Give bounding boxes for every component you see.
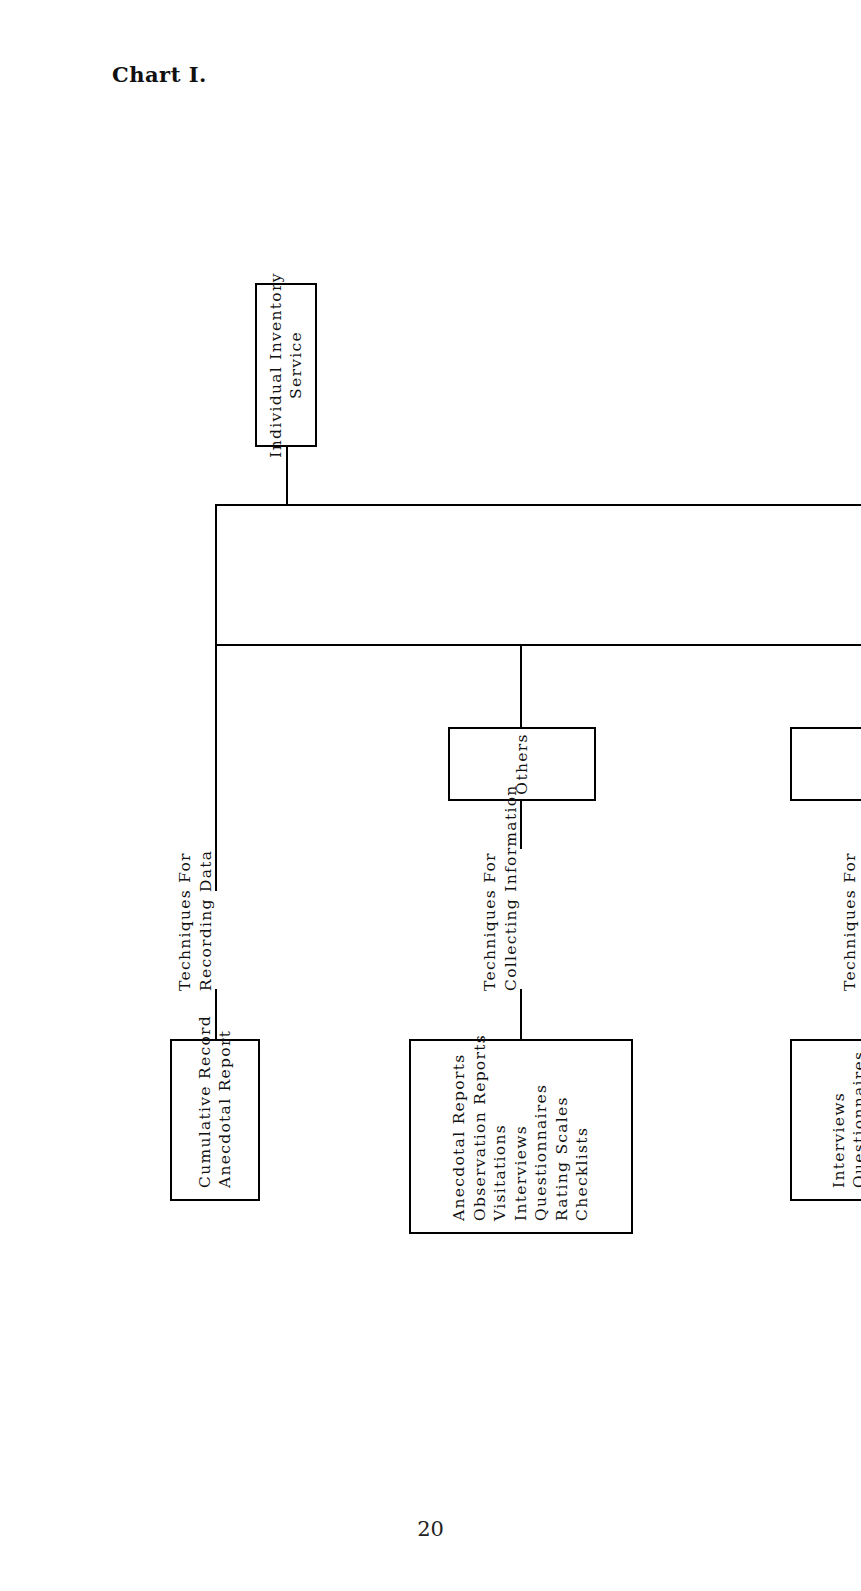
others-technique-item: Anecdotal Reports [449,1034,470,1221]
recording-tech-line-2: Recording Data [196,831,217,991]
others-technique-item: Checklists [572,1034,593,1221]
others-technique-item: Visitations [490,1034,511,1221]
org-chart-canvas: Individual Inventory Service Sources of … [0,0,861,1591]
peers-techniques-label: Techniques For Collecting Information [840,841,861,991]
root-node-line-2: Service [286,272,307,457]
recording-techniques-label: Techniques For Recording Data [175,831,217,991]
node-peers[interactable]: Peers [790,727,861,801]
connector-others-branch [520,644,522,729]
root-node-line-1: Individual Inventory [266,272,287,457]
recording-item: Anecdotal Report [215,1015,236,1188]
connector-sources-spine [215,644,861,646]
others-technique-lines: Anecdotal Reports Observation Reports Vi… [449,1034,593,1221]
node-others[interactable]: Others [448,727,596,801]
listbox-peers-techniques[interactable]: Interviews Questionnaires Sociogram Rati… [790,1039,861,1201]
root-node-lines: Individual Inventory Service [266,272,307,457]
others-tech-line-1: Techniques For [480,841,501,991]
root-node-individual-inventory-service[interactable]: Individual Inventory Service [255,283,317,447]
listbox-others-techniques[interactable]: Anecdotal Reports Observation Reports Vi… [409,1039,633,1234]
recording-lines: Cumulative Record Anecdotal Report [195,1015,236,1188]
others-technique-item: Interviews [511,1034,532,1221]
others-technique-item: Observation Reports [470,1034,491,1221]
peers-tech-line-1: Techniques For [840,841,861,991]
peers-technique-item: Interviews [829,1051,850,1188]
others-technique-item: Rating Scales [552,1034,573,1221]
others-technique-item: Questionnaires [531,1034,552,1221]
others-techniques-label: Techniques For Collecting Information [480,841,522,991]
others-tech-line-2: Collecting Information [501,841,522,991]
recording-tech-line-1: Techniques For [175,831,196,991]
listbox-recording-techniques[interactable]: Cumulative Record Anecdotal Report [170,1039,260,1201]
peers-technique-item: Questionnaires [849,1051,861,1188]
peers-technique-lines: Interviews Questionnaires Sociogram Rati… [829,1051,861,1188]
connector-main-spine [215,504,861,506]
recording-item: Cumulative Record [195,1015,216,1188]
connector-root-stem [286,446,288,506]
